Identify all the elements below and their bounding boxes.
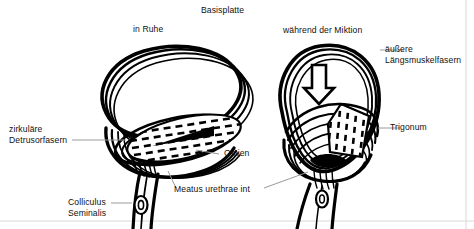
label-laengsmuskelfasern: Längsmuskelfasern (385, 55, 461, 65)
leader-meatus-right (264, 172, 308, 188)
anatomical-figure: Basisplatte in Ruhe während der Miktion … (0, 0, 474, 229)
bladder-during-micturition (280, 45, 379, 229)
colliculus-seminalis-right (316, 191, 328, 208)
label-waehrend-der-miktion: während der Miktion (283, 25, 362, 35)
label-ostien: Ostien (224, 148, 249, 158)
downward-arrow-icon (304, 65, 334, 104)
label-aeussere: äußere (385, 44, 413, 54)
figure-frame (0, 0, 474, 229)
bladder-at-rest (102, 46, 254, 229)
colliculus-seminalis-left (135, 196, 148, 214)
urethra-right (297, 184, 337, 229)
bladder-diagram-svg (0, 0, 474, 229)
label-trigonum: Trigonum (390, 122, 427, 132)
label-meatus-urethrae-int: Meatus urethrae int (174, 184, 250, 194)
label-basisplatte: Basisplatte (201, 5, 244, 15)
label-colliculus: Colliculus (68, 197, 106, 207)
label-zirkulaere: zirkuläre (9, 124, 42, 134)
label-detrusorfasern: Detrusorfasern (9, 135, 67, 145)
label-seminalis: Seminalis (68, 208, 106, 218)
label-in-ruhe: in Ruhe (133, 24, 163, 34)
